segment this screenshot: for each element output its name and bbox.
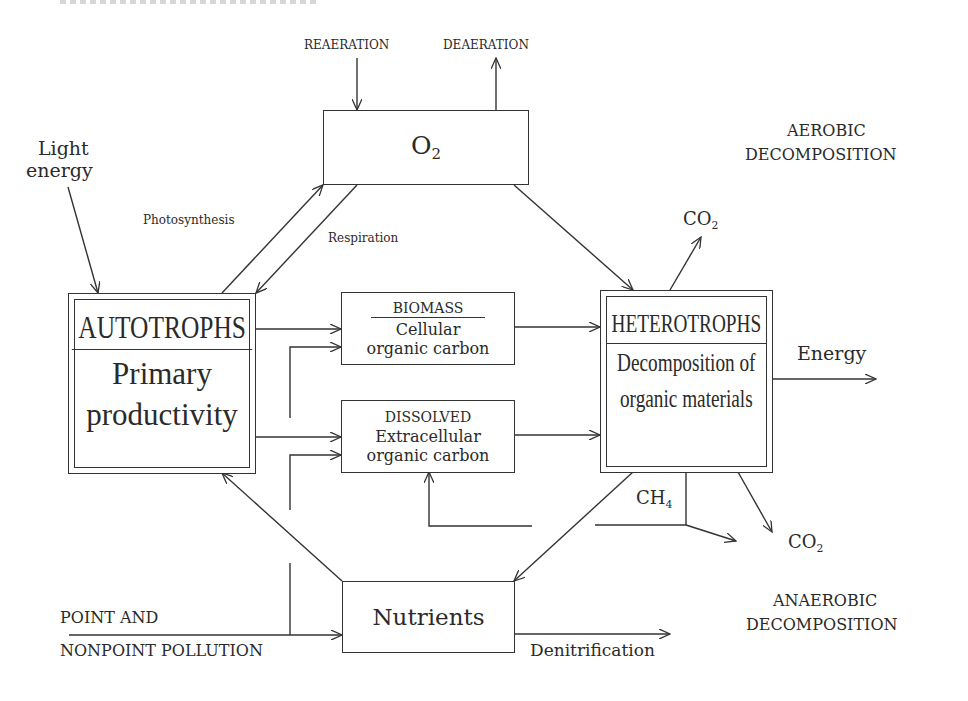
heterotrophs-line2: organic materials bbox=[607, 384, 766, 414]
photosynthesis-arrow bbox=[222, 185, 323, 293]
anaerobic-label-2: DECOMPOSITION bbox=[746, 617, 898, 633]
dissolved-title: DISSOLVED bbox=[385, 409, 471, 425]
biomass-line2: organic carbon bbox=[367, 339, 490, 358]
nutrients-label: Nutrients bbox=[372, 604, 484, 630]
reaeration-label: REAERATION bbox=[304, 39, 389, 51]
ch4-label: CH4 bbox=[636, 489, 672, 511]
co2-aerobic-label: CO2 bbox=[683, 210, 718, 232]
oxygen-box: O2 bbox=[323, 110, 529, 185]
aerobic-label-2: DECOMPOSITION bbox=[745, 147, 897, 163]
respiration-label: Respiration bbox=[328, 232, 398, 244]
autotrophs-title: AUTOTROPHS bbox=[72, 300, 253, 350]
aerobic-label-1: AEROBIC bbox=[787, 123, 866, 139]
heterotrophs-line1: Decomposition of bbox=[607, 348, 766, 378]
autotrophs-line1: Primary bbox=[112, 356, 212, 392]
o2-to-heterotrophs-arrow bbox=[514, 185, 633, 290]
ch4-out-arrow bbox=[686, 525, 736, 541]
heterotrophs-box: HETEROTROPHS Decomposition of organic ma… bbox=[600, 290, 773, 473]
heterotrophs-title: HETEROTROPHS bbox=[606, 297, 767, 344]
energy-label: Energy bbox=[797, 344, 866, 363]
autotrophs-line2: productivity bbox=[86, 397, 238, 433]
autotrophs-box: AUTOTROPHS Primary productivity bbox=[68, 293, 256, 474]
biomass-title: BIOMASS bbox=[371, 300, 486, 318]
anaerobic-label-1: ANAEROBIC bbox=[773, 593, 877, 609]
light-energy-label-1: Light bbox=[38, 139, 89, 158]
dissolved-line2: organic carbon bbox=[367, 446, 490, 465]
deaeration-label: DEAERATION bbox=[443, 39, 529, 51]
biomass-box: BIOMASS Cellular organic carbon bbox=[341, 292, 515, 365]
dissolved-box: DISSOLVED Extracellular organic carbon bbox=[341, 400, 515, 473]
nutrients-box: Nutrients bbox=[342, 581, 515, 653]
light-energy-label-2: energy bbox=[26, 161, 93, 180]
pollution-label-1: POINT AND bbox=[60, 610, 158, 626]
light-energy-arrow bbox=[68, 187, 98, 293]
nutrients-to-autotrophs-arrow bbox=[222, 473, 342, 581]
dissolved-line1: Extracellular bbox=[375, 427, 481, 446]
co2-aerobic-arrow bbox=[670, 237, 701, 290]
ch4-to-dissolved-arrow bbox=[429, 472, 532, 526]
carbon-oxygen-cycle-diagram: O2 AUTOTROPHS Primary productivity BIOMA… bbox=[0, 0, 968, 701]
pollution-riser-to-dissolved bbox=[290, 455, 341, 510]
co2-anaerobic-arrow bbox=[738, 472, 772, 532]
biomass-line1: Cellular bbox=[396, 320, 461, 339]
oxygen-label: O2 bbox=[411, 131, 441, 163]
denitrification-label: Denitrification bbox=[530, 642, 655, 659]
pollution-label-2: NONPOINT POLLUTION bbox=[60, 643, 263, 659]
co2-anaerobic-label: CO2 bbox=[788, 533, 823, 555]
pollution-riser-to-biomass bbox=[290, 347, 341, 418]
photosynthesis-label: Photosynthesis bbox=[143, 214, 235, 226]
